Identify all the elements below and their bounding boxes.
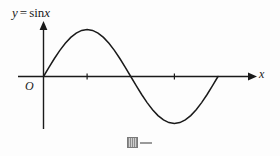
x-axis-label: x [259,68,264,80]
function-label-y: y [12,5,18,20]
scan-artifact [127,137,152,148]
function-label-name: sin [29,5,44,20]
y-axis-arrowhead [40,21,48,30]
missing-glyph-box-icon [127,137,138,148]
function-label-argument: x [44,5,50,20]
origin-label: O [25,80,34,92]
function-label: y=sinx [12,6,50,19]
x-axis [18,73,257,81]
artifact-dash [140,142,152,144]
y-axis [40,21,48,129]
function-label-equals: = [18,5,29,20]
plot-canvas [0,0,280,156]
x-axis-arrowhead [248,73,257,81]
sine-curve-figure: y=sinx O x [0,0,280,156]
